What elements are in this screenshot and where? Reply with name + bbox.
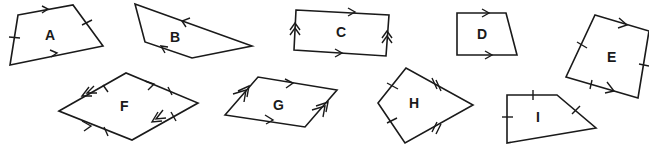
shape-label-h: H xyxy=(409,95,419,111)
shape-i: I xyxy=(502,90,596,143)
quadrilaterals-diagram: A B C D E xyxy=(0,0,649,148)
parallel-arrow-icon xyxy=(145,81,154,90)
double-parallel-arrow-icon xyxy=(152,110,166,122)
shape-f: F xyxy=(59,73,198,140)
shape-a: A xyxy=(9,5,103,65)
shape-d: D xyxy=(457,9,517,59)
tick-icon xyxy=(103,85,108,92)
shape-e: E xyxy=(566,15,649,98)
shape-label-e: E xyxy=(607,49,616,65)
shape-b: B xyxy=(135,4,252,58)
shape-label-c: C xyxy=(336,24,346,40)
parallel-arrow-icon xyxy=(285,79,293,88)
tick-icon xyxy=(639,64,649,66)
parallel-arrow-icon xyxy=(605,82,614,93)
shape-h: H xyxy=(378,68,473,143)
shape-label-g: G xyxy=(273,97,284,113)
shape-c: C xyxy=(290,8,392,57)
shape-label-i: I xyxy=(536,109,540,125)
tick-icon xyxy=(590,80,592,89)
shape-label-b: B xyxy=(170,29,180,45)
double-parallel-arrow-icon xyxy=(233,86,249,102)
shape-label-d: D xyxy=(477,26,487,42)
shape-label-a: A xyxy=(45,27,55,43)
tick-icon xyxy=(9,37,20,38)
shape-label-f: F xyxy=(120,98,129,114)
tick-icon xyxy=(104,127,108,136)
shape-g: G xyxy=(225,77,337,127)
parallel-arrow-icon xyxy=(348,8,355,16)
